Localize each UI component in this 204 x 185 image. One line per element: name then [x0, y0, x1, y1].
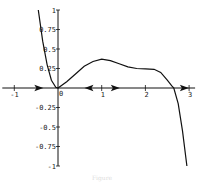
y-tick-label: -0.75	[35, 143, 56, 151]
y-tick-label: 1	[52, 7, 56, 15]
x-tick-label: -1	[10, 91, 18, 99]
y-tick-label: -1	[48, 163, 56, 171]
origin-label: 0	[59, 90, 63, 98]
x-tick-label: 2	[144, 91, 148, 99]
figure-caption: Figure	[0, 174, 204, 181]
x-tick-label: 3	[188, 91, 192, 99]
phase-line-chart: -1123010.750.50.25-0.25-0.5-0.75-1	[0, 0, 204, 185]
x-tick-label: 1	[101, 91, 105, 99]
y-tick-label: -0.25	[35, 104, 56, 112]
axes	[2, 10, 195, 166]
y-tick-label: -0.5	[39, 124, 56, 132]
